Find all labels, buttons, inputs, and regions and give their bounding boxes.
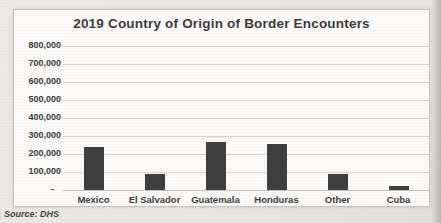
y-axis-labels: 800,000700,000600,000500,000400,000300,0… [18,40,61,196]
gridline [63,82,429,83]
gridline [63,154,429,155]
x-axis-labels: MexicoEl SalvadorGuatemalaHondurasOtherC… [63,194,429,208]
gridline [63,64,429,65]
gridline [63,172,429,173]
y-tick-label: 200,000 [18,148,61,159]
y-tick-label: 300,000 [18,130,61,141]
source-note: Source: DHS [4,209,59,219]
y-tick-label: 100,000 [18,166,61,177]
bar-cuba [389,186,409,190]
bar-other [328,174,348,190]
photo-edge-strip [431,0,441,223]
y-tick-label: 600,000 [18,76,61,87]
bar-honduras [267,144,287,190]
y-tick-label: 500,000 [18,94,61,105]
y-tick-label: 700,000 [18,58,61,69]
chart-title: 2019 Country of Origin of Border Encount… [14,16,429,31]
x-axis-baseline [63,190,429,191]
gridline [63,118,429,119]
y-tick-label: 400,000 [18,112,61,123]
bar-guatemala [206,142,226,190]
plot-area [63,46,429,190]
bar-mexico [84,147,104,190]
bar-el-salvador [145,174,165,190]
y-tick-zero-dash: - [18,184,61,195]
scanned-photo-background: 2019 Country of Origin of Border Encount… [0,0,441,223]
x-label-mexico: Mexico [63,194,124,208]
chart-frame: 2019 Country of Origin of Border Encount… [13,9,430,207]
x-label-other: Other [307,194,368,208]
x-label-cuba: Cuba [368,194,429,208]
gridline [63,100,429,101]
gridline [63,46,429,47]
x-label-guatemala: Guatemala [185,194,246,208]
x-label-honduras: Honduras [246,194,307,208]
gridline [63,136,429,137]
y-tick-label: 800,000 [18,40,61,51]
x-label-el-salvador: El Salvador [124,194,185,208]
